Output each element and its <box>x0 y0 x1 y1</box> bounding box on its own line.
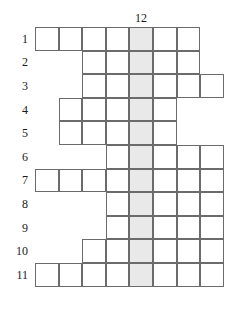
puzzle-cell-r9-c4[interactable] <box>106 216 130 240</box>
puzzle-cell-r8-c6[interactable] <box>153 192 177 216</box>
puzzle-cell-r11-c3[interactable] <box>82 263 106 287</box>
puzzle-cell-r3-c3[interactable] <box>82 74 106 98</box>
puzzle-cell-r6-c6[interactable] <box>153 145 177 169</box>
puzzle-cell-r10-c3[interactable] <box>82 239 106 263</box>
puzzle-cell-r7-c5[interactable] <box>129 169 153 193</box>
puzzle-cell-r10-c7[interactable] <box>177 239 201 263</box>
puzzle-cell-r2-c5[interactable] <box>129 51 153 75</box>
puzzle-cell-r8-c7[interactable] <box>177 192 201 216</box>
puzzle-cell-r7-c3[interactable] <box>82 169 106 193</box>
puzzle-cell-r1-c6[interactable] <box>153 27 177 51</box>
puzzle-cell-r4-c4[interactable] <box>106 98 130 122</box>
puzzle-cell-r1-c1[interactable] <box>35 27 59 51</box>
puzzle-cell-r10-c6[interactable] <box>153 239 177 263</box>
puzzle-cell-r11-c6[interactable] <box>153 263 177 287</box>
puzzle-cell-r8-c5[interactable] <box>129 192 153 216</box>
puzzle-cell-r3-c7[interactable] <box>177 74 201 98</box>
puzzle-cell-r3-c8[interactable] <box>200 74 224 98</box>
puzzle-cell-r7-c7[interactable] <box>177 169 201 193</box>
puzzle-cell-r5-c4[interactable] <box>106 121 130 145</box>
puzzle-cell-r11-c1[interactable] <box>35 263 59 287</box>
puzzle-cell-r9-c8[interactable] <box>200 216 224 240</box>
puzzle-cell-r3-c6[interactable] <box>153 74 177 98</box>
puzzle-cell-r7-c8[interactable] <box>200 169 224 193</box>
puzzle-cell-r9-c6[interactable] <box>153 216 177 240</box>
puzzle-cell-r11-c7[interactable] <box>177 263 201 287</box>
puzzle-cell-r7-c6[interactable] <box>153 169 177 193</box>
puzzle-cell-r3-c5[interactable] <box>129 74 153 98</box>
puzzle-cell-r4-c6[interactable] <box>153 98 177 122</box>
puzzle-cell-r9-c5[interactable] <box>129 216 153 240</box>
puzzle-cell-r2-c7[interactable] <box>177 51 201 75</box>
puzzle-cell-r1-c2[interactable] <box>59 27 83 51</box>
puzzle-cell-r5-c6[interactable] <box>153 121 177 145</box>
puzzle-cell-r5-c3[interactable] <box>82 121 106 145</box>
puzzle-cell-r6-c7[interactable] <box>177 145 201 169</box>
puzzle-cell-r2-c4[interactable] <box>106 51 130 75</box>
puzzle-cell-r4-c5[interactable] <box>129 98 153 122</box>
puzzle-cell-r10-c4[interactable] <box>106 239 130 263</box>
puzzle-cell-r5-c2[interactable] <box>59 121 83 145</box>
puzzle-cell-r7-c1[interactable] <box>35 169 59 193</box>
puzzle-cell-r1-c4[interactable] <box>106 27 130 51</box>
puzzle-cell-r11-c8[interactable] <box>200 263 224 287</box>
puzzle-cell-r10-c5[interactable] <box>129 239 153 263</box>
puzzle-cell-r6-c4[interactable] <box>106 145 130 169</box>
puzzle-cell-r7-c2[interactable] <box>59 169 83 193</box>
puzzle-cell-r1-c7[interactable] <box>177 27 201 51</box>
puzzle-cell-r2-c3[interactable] <box>82 51 106 75</box>
puzzle-cell-r9-c7[interactable] <box>177 216 201 240</box>
crossword-puzzle: 12 1234567891011 <box>0 0 237 314</box>
puzzle-cell-r8-c4[interactable] <box>106 192 130 216</box>
puzzle-cell-r4-c2[interactable] <box>59 98 83 122</box>
puzzle-cell-r6-c8[interactable] <box>200 145 224 169</box>
puzzle-cell-r2-c6[interactable] <box>153 51 177 75</box>
crossword-grid <box>0 0 237 314</box>
puzzle-cell-r11-c2[interactable] <box>59 263 83 287</box>
puzzle-cell-r5-c5[interactable] <box>129 121 153 145</box>
puzzle-cell-r8-c8[interactable] <box>200 192 224 216</box>
puzzle-cell-r1-c5[interactable] <box>129 27 153 51</box>
puzzle-cell-r1-c3[interactable] <box>82 27 106 51</box>
puzzle-cell-r11-c4[interactable] <box>106 263 130 287</box>
puzzle-cell-r3-c4[interactable] <box>106 74 130 98</box>
puzzle-cell-r4-c3[interactable] <box>82 98 106 122</box>
puzzle-cell-r10-c8[interactable] <box>200 239 224 263</box>
puzzle-cell-r11-c5[interactable] <box>129 263 153 287</box>
puzzle-cell-r6-c5[interactable] <box>129 145 153 169</box>
puzzle-cell-r7-c4[interactable] <box>106 169 130 193</box>
